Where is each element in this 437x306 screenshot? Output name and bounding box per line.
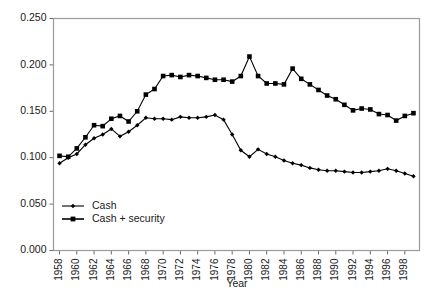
series-group: [57, 54, 416, 178]
data-point-marker: [316, 88, 321, 93]
data-point-marker: [325, 93, 330, 98]
data-point-marker: [282, 158, 286, 162]
y-tick-label: 0.100: [20, 150, 46, 162]
data-point-marker: [152, 117, 156, 121]
legend-label: Cash: [92, 199, 117, 211]
data-point-marker: [178, 75, 183, 80]
data-point-marker: [282, 82, 287, 87]
data-point-marker: [204, 76, 209, 81]
data-point-marker: [342, 103, 347, 108]
data-point-marker: [247, 54, 252, 59]
x-tick-label: 1974: [191, 258, 202, 281]
data-point-marker: [334, 168, 338, 172]
x-tick-label: 1986: [295, 258, 306, 281]
data-point-marker: [213, 113, 217, 117]
x-tick-label: 1982: [260, 258, 271, 281]
line-chart: 0.0000.0500.1000.1500.2000.250 195819601…: [0, 0, 437, 306]
data-point-marker: [204, 115, 208, 119]
data-point-marker: [403, 171, 407, 175]
data-point-marker: [299, 77, 304, 82]
data-point-marker: [57, 154, 62, 159]
data-point-marker: [264, 81, 269, 86]
x-tick-label: 1996: [381, 258, 392, 281]
data-point-marker: [161, 117, 165, 121]
data-point-marker: [316, 168, 320, 172]
data-point-marker: [213, 77, 218, 82]
x-tick-label: 1976: [209, 258, 220, 281]
data-point-marker: [377, 168, 381, 172]
x-tick-label: 1966: [122, 258, 133, 281]
data-point-marker: [256, 74, 261, 79]
data-point-marker: [118, 114, 123, 119]
data-point-marker: [135, 109, 140, 114]
data-point-marker: [359, 170, 363, 174]
data-point-marker: [92, 123, 97, 128]
data-point-marker: [368, 107, 373, 112]
data-point-marker: [178, 115, 182, 119]
x-tick-label: 1970: [157, 258, 168, 281]
data-point-marker: [290, 66, 295, 71]
data-point-marker: [273, 81, 278, 86]
y-tick-label: 0.000: [20, 243, 46, 255]
data-point-marker: [144, 92, 149, 97]
data-point-marker: [170, 117, 174, 121]
data-point-marker: [187, 73, 192, 78]
data-point-marker: [187, 116, 191, 120]
legend-label: Cash + security: [92, 212, 165, 224]
data-point-marker: [299, 163, 303, 167]
data-point-marker: [342, 169, 346, 173]
data-point-marker: [71, 204, 75, 208]
x-tick-label: 1992: [347, 258, 358, 281]
data-point-marker: [169, 73, 174, 78]
data-point-marker: [71, 217, 76, 222]
x-axis-title: Year: [226, 277, 248, 289]
x-tick-label: 1960: [70, 258, 81, 281]
data-point-marker: [351, 108, 356, 113]
y-tick-label: 0.200: [20, 58, 46, 70]
data-point-marker: [221, 77, 226, 82]
data-point-marker: [403, 114, 408, 119]
data-point-marker: [152, 87, 157, 92]
y-axis-group: 0.0000.0500.1000.1500.2000.250: [20, 11, 53, 255]
series-line: [60, 115, 414, 176]
x-tick-label: 1998: [398, 258, 409, 281]
data-point-marker: [83, 135, 88, 140]
data-point-marker: [325, 168, 329, 172]
data-point-marker: [385, 167, 389, 171]
data-point-marker: [230, 132, 234, 136]
data-point-marker: [308, 166, 312, 170]
x-tick-label: 1988: [312, 258, 323, 281]
x-tick-label: 1962: [88, 258, 99, 281]
data-point-marker: [368, 169, 372, 173]
data-point-marker: [411, 174, 415, 178]
data-point-marker: [265, 152, 269, 156]
x-tick-label: 1968: [140, 258, 151, 281]
data-point-marker: [273, 155, 277, 159]
series-cash: [57, 113, 415, 179]
data-point-marker: [230, 79, 235, 84]
data-point-marker: [394, 118, 399, 123]
data-point-marker: [75, 146, 80, 151]
data-point-marker: [239, 74, 244, 79]
data-point-marker: [359, 106, 364, 111]
data-point-marker: [161, 74, 166, 79]
data-point-marker: [100, 124, 105, 129]
y-tick-label: 0.050: [20, 197, 46, 209]
data-point-marker: [126, 119, 131, 124]
data-point-marker: [385, 113, 390, 118]
y-tick-label: 0.150: [20, 104, 46, 116]
x-tick-label: 1972: [174, 258, 185, 281]
data-point-marker: [221, 117, 225, 121]
x-tick-label: 1994: [364, 258, 375, 281]
data-point-marker: [290, 161, 294, 165]
x-tick-label: 1964: [105, 258, 116, 281]
chart-container: 0.0000.0500.1000.1500.2000.250 195819601…: [0, 0, 437, 306]
data-point-marker: [394, 168, 398, 172]
x-tick-label: 1984: [278, 258, 289, 281]
data-point-marker: [377, 112, 382, 117]
data-point-marker: [195, 74, 200, 79]
data-point-marker: [333, 97, 338, 102]
data-point-marker: [411, 111, 416, 116]
chart-legend: CashCash + security: [62, 199, 165, 224]
x-tick-label: 1958: [53, 258, 64, 281]
